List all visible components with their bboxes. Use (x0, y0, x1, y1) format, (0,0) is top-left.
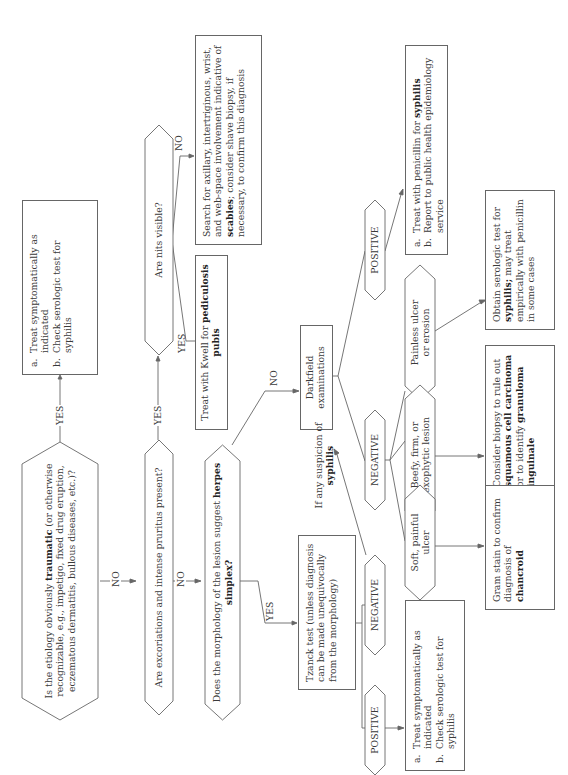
action-treat-penicillin: a.Treat with penicillin for syphilis b.R… (405, 45, 448, 255)
decision-herpes-simplex: Does the morphology of the lesion sugges… (205, 445, 240, 720)
edge-label-yes: YES (264, 602, 275, 621)
result-darkfield-positive: POSITIVE (365, 200, 385, 300)
edge-label-yes: YES (54, 405, 65, 426)
action-treat-kwell: Treat with Kwell for pediculosis pubis (195, 255, 228, 430)
decision-traumatic: Is the etiology obviously traumatic (or … (22, 442, 98, 720)
decision-excoriations: Are excoriations and intense pruritus pr… (145, 440, 173, 715)
test-tzanck: Tzanck test (unless diagnosis can be mad… (298, 535, 356, 690)
result-label: POSITIVE (369, 692, 380, 767)
edge-label-yes: YES (152, 405, 163, 426)
result-label: NEGATIVE (369, 420, 380, 500)
result-tzanck-positive: POSITIVE (365, 685, 385, 775)
result-tzanck-negative: NEGATIVE (365, 555, 385, 655)
note-suspicion-syphilis: If any suspicion of syphilis (313, 418, 335, 513)
lesion-label: Soft, painful ulcer (409, 485, 432, 600)
action-consider-biopsy: Consider biopsy to rule out squamous cel… (485, 345, 555, 495)
lesion-label: Painless ulcer or erosion (409, 265, 432, 400)
decision-herpes-text: Does the morphology of the lesion sugges… (211, 445, 234, 720)
action-search-scabies: Search for axillary, intertriginous, wri… (195, 35, 262, 245)
action-treat-symptomatically-top: a.Treat symptomatically as indicated b.C… (22, 200, 98, 375)
edge-label-no: NO (173, 135, 184, 151)
edge-label-no: NO (110, 571, 121, 587)
result-label: NEGATIVE (369, 565, 380, 645)
action-treat-symptomatically-bottom: a.Treat symptomatically as indicated b.C… (405, 600, 465, 771)
decision-excoriations-text: Are excoriations and intense pruritus pr… (153, 453, 164, 701)
edge-label-no: NO (268, 370, 279, 386)
lesion-painless-ulcer: Painless ulcer or erosion (405, 265, 435, 400)
decision-traumatic-text: Is the etiology obviously traumatic (or … (43, 442, 77, 720)
result-label: POSITIVE (369, 212, 380, 287)
action-obtain-serologic: Obtain serologic test for syphilis; may … (485, 190, 555, 330)
edge-label-yes: YES (176, 334, 187, 353)
decision-nits-text: Are nits visible? (153, 188, 164, 291)
test-darkfield: Darkfield examinations (300, 325, 333, 430)
result-darkfield-negative: NEGATIVE (365, 410, 385, 510)
action-gram-stain: Gram stain to confirm diagnosis of chanc… (485, 485, 555, 610)
lesion-soft-painful-ulcer: Soft, painful ulcer (405, 485, 435, 600)
decision-nits: Are nits visible? (145, 125, 173, 355)
edge-label-no: NO (175, 571, 186, 587)
